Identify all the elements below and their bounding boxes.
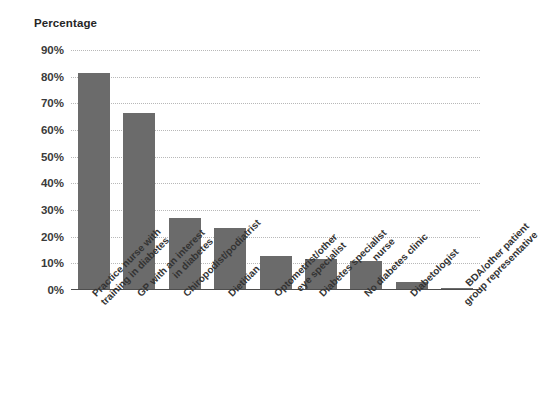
y-axis-tick-label: 10% bbox=[41, 257, 64, 269]
gridline bbox=[71, 103, 480, 104]
y-axis-tick-label: 90% bbox=[41, 44, 64, 56]
x-axis-tick-labels: Practice nurse withtraining in diabetesG… bbox=[0, 291, 492, 412]
bar[interactable] bbox=[78, 73, 110, 290]
y-axis-tick-label: 60% bbox=[41, 124, 64, 136]
chart-title: Percentage bbox=[34, 17, 97, 29]
gridline bbox=[71, 50, 480, 51]
y-axis-tick-label: 20% bbox=[41, 231, 64, 243]
y-axis-tick-labels: 0%10%20%30%40%50%60%70%80%90% bbox=[0, 50, 64, 290]
gridline bbox=[71, 77, 480, 78]
y-axis-tick-label: 40% bbox=[41, 177, 64, 189]
y-axis-tick-label: 80% bbox=[41, 71, 64, 83]
y-axis-tick-label: 70% bbox=[41, 97, 64, 109]
y-axis-tick-label: 30% bbox=[41, 204, 64, 216]
y-axis-tick-label: 50% bbox=[41, 151, 64, 163]
